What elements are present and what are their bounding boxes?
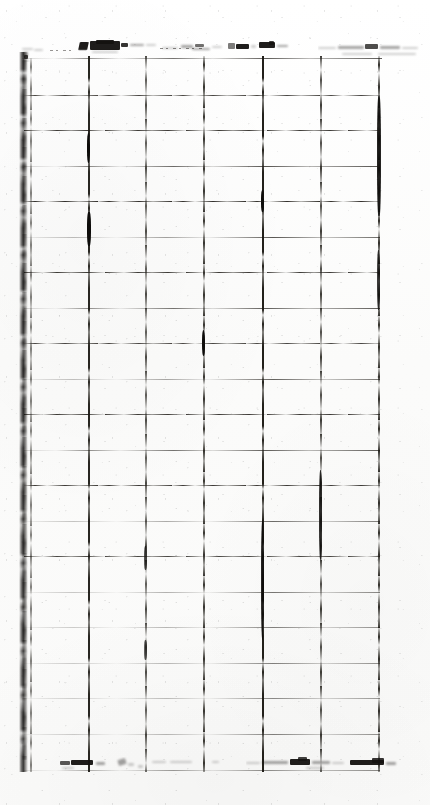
ink-blob — [144, 546, 147, 570]
ink-blob — [319, 470, 322, 560]
table-row-rule — [24, 485, 380, 486]
table-row-rule — [24, 627, 380, 628]
table-row-rule — [24, 663, 380, 664]
header-field-2: [illegible] — [78, 40, 158, 54]
header-field-4: [illegible] — [228, 40, 290, 56]
table-row-rule — [24, 734, 380, 735]
paper-texture — [0, 0, 430, 805]
header-right-run — [318, 41, 420, 59]
table-row-rule — [24, 698, 380, 699]
header-field-1: [illegible] — [20, 46, 64, 62]
table-row-rule — [24, 130, 380, 131]
table-row-rule — [22, 58, 382, 59]
table-bottom-rule — [24, 770, 380, 771]
table-row-rule — [24, 272, 380, 273]
ink-blob — [87, 133, 90, 163]
table-row-rule — [24, 166, 380, 167]
table-row-rule — [24, 379, 380, 380]
table-row-rule — [24, 414, 380, 415]
table-row-rule — [24, 521, 380, 522]
table-row-rule — [24, 556, 380, 557]
table-row-rule — [24, 308, 380, 309]
ink-blob — [261, 520, 264, 640]
binding-edge-artifact — [22, 60, 27, 760]
scanned-page: [illegible] [illegible] [illegible] [ill… — [0, 0, 430, 805]
table-row-rule — [24, 592, 380, 593]
ink-blob — [87, 212, 91, 246]
table-row-rule — [24, 201, 380, 202]
ink-blob — [377, 96, 381, 216]
scan-speckle-noise — [0, 0, 430, 805]
table-row-rule — [24, 343, 380, 344]
ink-blob — [377, 250, 380, 310]
table-row-rule — [24, 237, 380, 238]
table-row-rule — [24, 450, 380, 451]
ink-blob — [144, 640, 147, 660]
table-row-rule — [24, 95, 380, 96]
